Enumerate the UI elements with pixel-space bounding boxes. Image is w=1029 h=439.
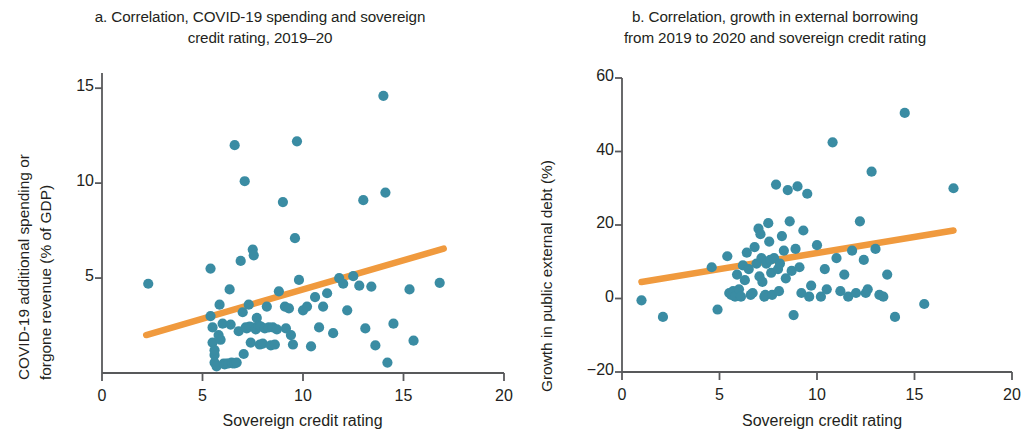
- scatter-point: [246, 338, 256, 348]
- x-tick-label: 15: [379, 387, 429, 405]
- scatter-point: [348, 271, 358, 281]
- scatter-point: [806, 281, 816, 291]
- scatter-point: [284, 303, 294, 313]
- y-tick-label: 40: [560, 141, 614, 159]
- scatter-point: [306, 341, 316, 351]
- scatter-point: [322, 288, 332, 298]
- panel-b-xlabel: Sovereign credit rating: [622, 412, 1022, 430]
- scatter-point: [205, 263, 215, 273]
- scatter-point: [360, 323, 370, 333]
- scatter-point: [270, 339, 280, 349]
- scatter-point: [226, 319, 236, 329]
- scatter-point: [408, 336, 418, 346]
- scatter-point: [388, 319, 398, 329]
- scatter-point: [890, 312, 900, 322]
- scatter-points-group: [143, 91, 445, 372]
- scatter-point: [292, 136, 302, 146]
- scatter-point: [310, 292, 320, 302]
- scatter-point: [380, 188, 390, 198]
- scatter-points-group: [636, 108, 958, 322]
- panel-a-xlabel: Sovereign credit rating: [100, 412, 505, 430]
- scatter-point: [764, 236, 774, 246]
- scatter-point: [382, 357, 392, 367]
- x-tick-label: 10: [278, 387, 328, 405]
- scatter-point: [286, 330, 296, 340]
- scatter-point: [847, 246, 857, 256]
- scatter-point: [318, 301, 328, 311]
- scatter-point: [404, 284, 414, 294]
- scatter-point: [798, 225, 808, 235]
- y-tick-label: 5: [40, 267, 94, 285]
- x-tick-label: 5: [695, 386, 745, 404]
- scatter-point: [882, 270, 892, 280]
- scatter-point: [236, 256, 246, 266]
- scatter-point: [712, 304, 722, 314]
- scatter-point: [209, 345, 219, 355]
- scatter-point: [870, 244, 880, 254]
- scatter-point: [272, 324, 282, 334]
- scatter-point: [378, 91, 388, 101]
- y-tick-label: 15: [40, 77, 94, 95]
- y-tick-label: 10: [40, 172, 94, 190]
- trend-line: [146, 249, 443, 335]
- y-tick-label: −20: [560, 361, 614, 379]
- scatter-point: [851, 288, 861, 298]
- scatter-point: [366, 282, 376, 292]
- scatter-point: [763, 218, 773, 228]
- scatter-point: [230, 140, 240, 150]
- scatter-point: [358, 195, 368, 205]
- scatter-point: [828, 137, 838, 147]
- scatter-point: [820, 264, 830, 274]
- x-tick-label: 15: [890, 386, 940, 404]
- scatter-point: [262, 301, 272, 311]
- chart-panel-b: b. Correlation, growth in external borro…: [515, 0, 1029, 439]
- scatter-point: [338, 279, 348, 289]
- scatter-point: [707, 262, 717, 272]
- scatter-point: [225, 284, 235, 294]
- y-tick-label: 0: [560, 288, 614, 306]
- scatter-point: [232, 357, 242, 367]
- x-tick-label: 0: [597, 386, 647, 404]
- scatter-point: [775, 258, 785, 268]
- scatter-point: [288, 339, 298, 349]
- x-tick-label: 20: [987, 386, 1029, 404]
- scatter-point: [143, 279, 153, 289]
- scatter-point: [919, 299, 929, 309]
- scatter-point: [855, 216, 865, 226]
- scatter-point: [794, 262, 804, 272]
- scatter-point: [867, 167, 877, 177]
- scatter-point: [900, 108, 910, 118]
- scatter-point: [658, 312, 668, 322]
- x-tick-label: 0: [77, 387, 127, 405]
- scatter-point: [859, 255, 869, 265]
- scatter-point: [755, 229, 765, 239]
- scatter-point: [948, 183, 958, 193]
- scatter-point: [722, 251, 732, 261]
- scatter-point: [774, 286, 784, 296]
- scatter-point: [802, 189, 812, 199]
- scatter-point: [290, 233, 300, 243]
- scatter-point: [771, 179, 781, 189]
- scatter-point: [274, 286, 284, 296]
- scatter-point: [839, 270, 849, 280]
- scatter-point: [342, 305, 352, 315]
- panel-a-ylabel-line-1: COVID-19 additional spending or: [14, 154, 34, 380]
- scatter-point: [205, 311, 215, 321]
- scatter-point: [757, 277, 767, 287]
- scatter-point: [748, 288, 758, 298]
- trend-line: [642, 231, 954, 282]
- x-tick-label: 5: [178, 387, 228, 405]
- scatter-point: [239, 349, 249, 359]
- x-tick-label: 10: [792, 386, 842, 404]
- scatter-point: [278, 197, 288, 207]
- scatter-point: [214, 300, 224, 310]
- scatter-point: [435, 278, 445, 288]
- scatter-point: [790, 244, 800, 254]
- y-tick-label: 60: [560, 67, 614, 85]
- figure-container: a. Correlation, COVID-19 spending and so…: [0, 0, 1029, 439]
- scatter-point: [314, 322, 324, 332]
- scatter-point: [249, 250, 259, 260]
- scatter-point: [736, 292, 746, 302]
- scatter-point: [636, 295, 646, 305]
- scatter-point: [215, 335, 225, 345]
